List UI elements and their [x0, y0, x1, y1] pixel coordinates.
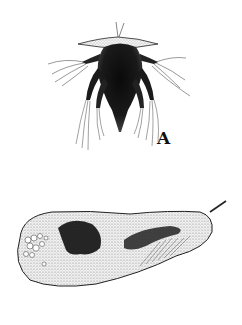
figure-a-larva: A	[0, 0, 242, 160]
figure-label-a: A	[157, 130, 170, 147]
figure-b-cell: B	[0, 160, 242, 325]
cell-drawing	[0, 160, 242, 325]
larva-drawing	[0, 0, 242, 160]
